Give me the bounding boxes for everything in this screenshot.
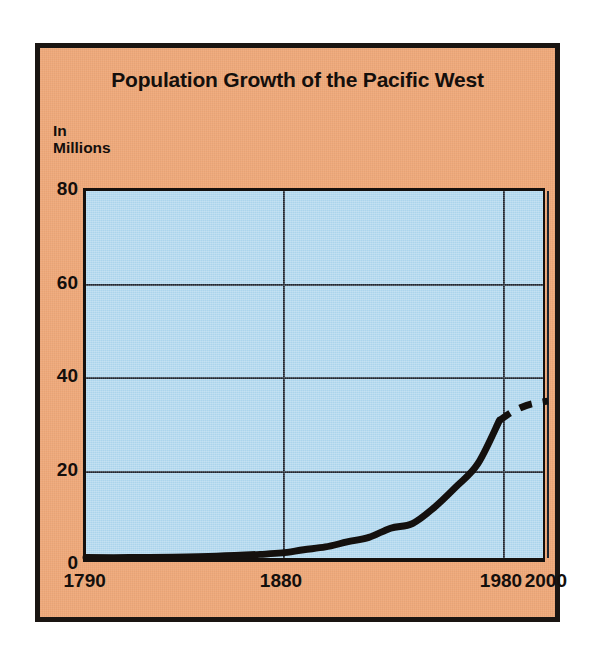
x-axis-tick-label: 1880 (260, 571, 302, 590)
y-axis-tick-labels: 020406080 (40, 48, 78, 617)
x-axis-tick-label: 1790 (64, 571, 106, 590)
chart-figure-frame: Population Growth of the Pacific West In… (35, 43, 560, 622)
x-axis-tick-label: 1980 (480, 571, 522, 590)
gridline-vertical (547, 191, 549, 558)
x-axis-tick-label: 2000 (525, 571, 567, 590)
line-series-projected (499, 401, 547, 420)
y-axis-tick-label: 80 (57, 179, 78, 198)
line-series-recorded (86, 420, 499, 557)
series-layer (86, 191, 543, 558)
plot-area (83, 188, 545, 562)
y-axis-tick-label: 40 (57, 366, 78, 385)
y-axis-tick-label: 20 (57, 460, 78, 479)
page-title: Population Growth of the Pacific West (40, 68, 555, 92)
y-axis-tick-label: 60 (57, 273, 78, 292)
